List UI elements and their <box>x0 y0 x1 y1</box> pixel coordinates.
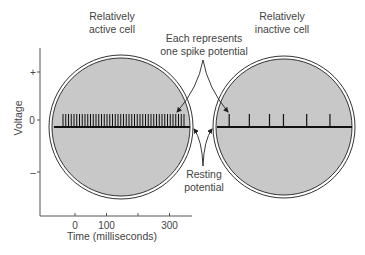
active-cell <box>49 55 193 199</box>
resting-note-line1: Resting <box>186 168 222 180</box>
active-cell-label-line1: Relatively <box>89 10 135 22</box>
inactive-cell <box>213 56 355 198</box>
spike-note-line1: Each represents <box>166 32 242 44</box>
resting-arrow-right <box>203 129 212 166</box>
y-tick-label-plus: + <box>30 67 36 78</box>
spike-note-line2: one spike potential <box>160 45 248 57</box>
x-axis-title: Time (milliseconds) <box>67 230 157 242</box>
y-tick-label-zero: 0 <box>29 115 35 126</box>
y-axis-title: Voltage <box>12 100 24 135</box>
inactive-cell-label-line2: inactive cell <box>255 23 309 35</box>
y-tick-label-minus: – <box>30 167 36 178</box>
resting-note-line2: potential <box>184 181 224 193</box>
inactive-cell-label-line1: Relatively <box>259 10 305 22</box>
active-cell-label-line2: active cell <box>89 23 135 35</box>
diagram: + 0 – Voltage 0100300 Time (milliseconds… <box>0 0 365 255</box>
x-tick-label: 300 <box>161 220 178 231</box>
resting-arrow-left <box>194 129 203 166</box>
